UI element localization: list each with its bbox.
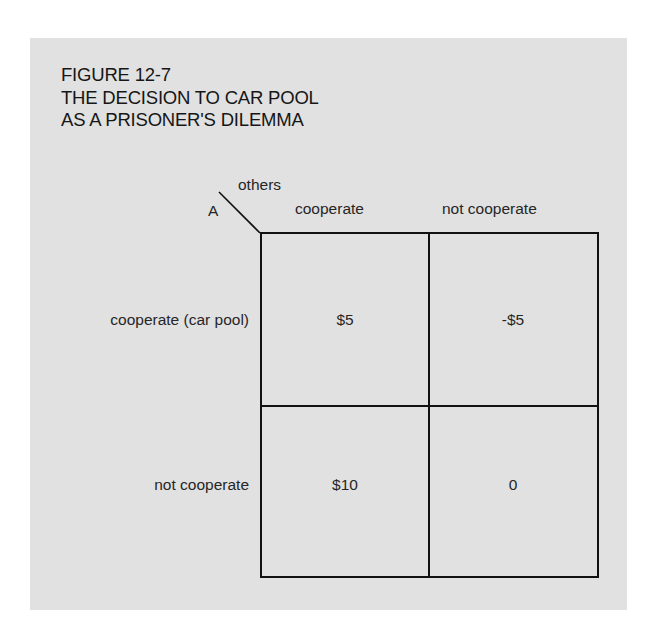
column-header-not-cooperate: not cooperate <box>442 200 537 218</box>
column-header-cooperate: cooperate <box>295 200 364 218</box>
column-player-label: others <box>238 176 281 194</box>
payoff-matrix: $5 -$5 $10 0 <box>260 232 599 578</box>
payoff-cell-nc: $10 <box>262 476 428 494</box>
payoff-cell-cc: $5 <box>262 311 428 329</box>
row-divider <box>262 405 597 407</box>
payoff-cell-cn: -$5 <box>430 311 596 329</box>
payoff-cell-nn: 0 <box>430 476 596 494</box>
row-header-cooperate: cooperate (car pool) <box>110 311 249 329</box>
row-player-label: A <box>208 202 218 220</box>
row-header-not-cooperate: not cooperate <box>154 476 249 494</box>
